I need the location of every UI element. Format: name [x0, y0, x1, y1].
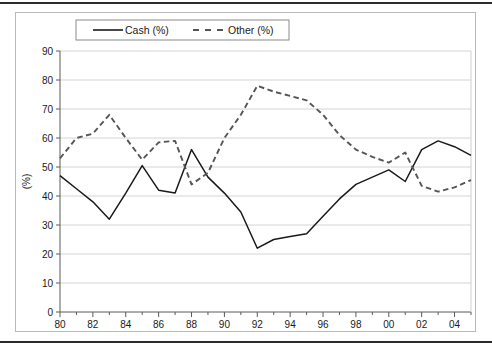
y-tick-label: 0 — [47, 307, 53, 318]
x-tick-label: 80 — [54, 319, 66, 330]
x-ticks: 80828486889092949698000204 — [54, 312, 471, 330]
x-tick-label: 86 — [153, 319, 165, 330]
y-tick-label: 40 — [42, 191, 54, 202]
y-tick-label: 90 — [42, 46, 54, 57]
y-axis-title: (%) — [21, 174, 32, 190]
y-tick-label: 10 — [42, 278, 54, 289]
series-line-cash — [60, 141, 471, 248]
y-tick-label: 70 — [42, 104, 54, 115]
x-tick-label: 96 — [317, 319, 329, 330]
x-tick-label: 02 — [416, 319, 428, 330]
series-line-other — [60, 86, 471, 192]
x-tick-label: 04 — [449, 319, 461, 330]
y-gridlines: 0102030405060708090 — [42, 46, 471, 318]
chart-legend: Cash (%)Other (%) — [76, 20, 289, 40]
x-tick-label: 00 — [383, 319, 395, 330]
y-tick-label: 50 — [42, 162, 54, 173]
legend-label-cash: Cash (%) — [125, 24, 169, 36]
x-tick-label: 82 — [87, 319, 99, 330]
legend-label-other: Other (%) — [228, 24, 274, 36]
x-tick-label: 84 — [120, 319, 132, 330]
y-tick-label: 60 — [42, 133, 54, 144]
y-tick-label: 30 — [42, 220, 54, 231]
chart-frame: 0102030405060708090808284868890929496980… — [15, 12, 476, 332]
line-chart: 0102030405060708090808284868890929496980… — [16, 13, 475, 331]
x-tick-label: 90 — [219, 319, 231, 330]
y-tick-label: 80 — [42, 75, 54, 86]
top-rule — [0, 2, 492, 4]
figure-root: 0102030405060708090808284868890929496980… — [0, 0, 492, 347]
x-tick-label: 98 — [350, 319, 362, 330]
y-tick-label: 20 — [42, 249, 54, 260]
x-tick-label: 94 — [285, 319, 297, 330]
bottom-rule — [0, 341, 492, 343]
x-tick-label: 88 — [186, 319, 198, 330]
x-tick-label: 92 — [252, 319, 264, 330]
